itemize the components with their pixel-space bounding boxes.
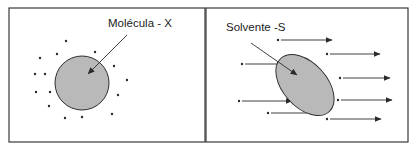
- solvent-dot: [94, 51, 96, 53]
- solvent-dot: [117, 94, 119, 96]
- left-panel: Molécula - X: [9, 8, 205, 142]
- solvent-dot: [34, 73, 36, 75]
- solvent-dot: [65, 40, 67, 42]
- solvation-diagram: Molécula - X Solvente -S: [0, 0, 412, 145]
- solvent-dot: [44, 73, 46, 75]
- solvent-dot: [39, 57, 41, 59]
- solvent-dot: [56, 53, 58, 55]
- molecule-x-circle: [55, 56, 109, 110]
- solvent-dot: [113, 65, 115, 67]
- solvent-dot: [64, 117, 66, 119]
- right-panel: Solvente -S: [206, 8, 408, 142]
- solvent-dot: [35, 91, 37, 93]
- molecule-x-label: Molécula - X: [108, 17, 172, 29]
- solvent-dot: [48, 105, 50, 107]
- solvent-dot: [81, 116, 83, 118]
- solvent-dot: [126, 79, 128, 81]
- solvent-dot: [111, 113, 113, 115]
- solvent-dot: [49, 91, 51, 93]
- solvent-s-label: Solvente -S: [226, 21, 286, 33]
